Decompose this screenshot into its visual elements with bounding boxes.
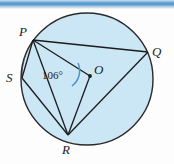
point-label-s: S bbox=[6, 71, 13, 84]
circle-outline bbox=[21, 13, 153, 145]
center-point-dot bbox=[88, 74, 92, 78]
point-label-p: P bbox=[19, 25, 27, 38]
center-label-o: O bbox=[94, 63, 103, 76]
geometry-figure-page: P Q S R O 106° bbox=[0, 0, 174, 164]
point-label-q: Q bbox=[152, 45, 161, 58]
point-label-r: R bbox=[62, 143, 70, 156]
angle-measure-label: 106° bbox=[42, 70, 63, 81]
